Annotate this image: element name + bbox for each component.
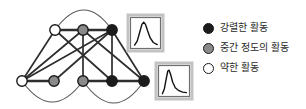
intense-activity-dot-icon bbox=[203, 23, 214, 34]
legend-item-moderate: 중간 정도의 활동 bbox=[203, 42, 289, 54]
node-weak bbox=[50, 25, 60, 35]
node-moderate bbox=[78, 76, 88, 86]
weak-activity-dot-icon bbox=[203, 63, 214, 74]
node-intense bbox=[107, 25, 117, 35]
node-intense bbox=[139, 76, 149, 86]
legend: 강렬한 활동 중간 정도의 활동 약한 활동 bbox=[203, 22, 289, 74]
legend-item-intense: 강렬한 활동 bbox=[203, 22, 289, 34]
legend-item-weak: 약한 활동 bbox=[203, 62, 289, 74]
node-moderate bbox=[49, 76, 59, 86]
node-intense bbox=[107, 76, 117, 86]
legend-label-intense: 강렬한 활동 bbox=[220, 22, 268, 34]
legend-label-moderate: 중간 정도의 활동 bbox=[220, 42, 289, 54]
node-moderate bbox=[78, 25, 88, 35]
node-weak bbox=[17, 76, 27, 86]
edge-line bbox=[22, 30, 112, 81]
edge-line bbox=[22, 30, 83, 81]
edge-line bbox=[22, 30, 55, 81]
moderate-activity-dot-icon bbox=[203, 43, 214, 54]
legend-label-weak: 약한 활동 bbox=[220, 62, 259, 74]
